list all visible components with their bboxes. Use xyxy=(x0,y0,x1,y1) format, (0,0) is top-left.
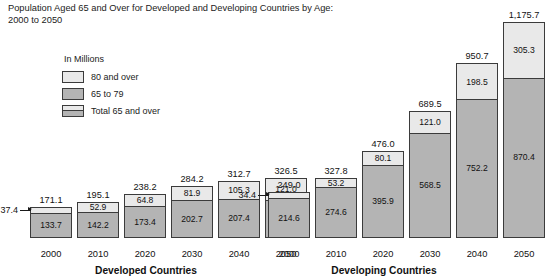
bar-developing-2000: 249.034.434.4214.6 xyxy=(268,22,310,238)
bar-segment-value-80-and-over: 80.1 xyxy=(375,154,392,163)
bar-segment-value-65-to-79: 133.7 xyxy=(40,221,62,230)
bar-total-label: 312.7 xyxy=(228,169,251,179)
stacked-bar: 305.3870.4 xyxy=(503,22,545,238)
callout-leader-line-icon xyxy=(258,195,269,196)
bar-segment-value-80-and-over: 198.5 xyxy=(466,78,488,87)
bar-segment-value-80-and-over: 53.2 xyxy=(328,179,345,188)
bar-segment-callout-80-and-over: 37.4 xyxy=(0,205,31,215)
bar-segment-80-and-over: 80.1 xyxy=(363,152,403,166)
bar-segment-callout-80-and-over: 34.4 xyxy=(238,190,269,200)
bar-developed-2020: 238.264.8173.4 xyxy=(124,22,166,238)
stacked-bar: 53.2274.6 xyxy=(315,178,357,238)
bar-segment-value-80-and-over: 305.3 xyxy=(513,46,535,55)
bar-segment-80-and-over: 198.5 xyxy=(457,64,497,100)
x-axis-developing: 200020102020203020402050 xyxy=(268,249,545,259)
bar-developed-2040: 312.7105.3207.4 xyxy=(218,22,260,238)
stacked-bar: 64.8173.4 xyxy=(124,194,166,238)
stacked-bar: 37.437.4133.7 xyxy=(30,207,72,238)
bar-segment-65-to-79: 870.4 xyxy=(504,79,544,237)
bar-total-label: 249.0 xyxy=(278,180,301,190)
stacked-bar: 80.1395.9 xyxy=(362,151,404,238)
bar-segment-80-and-over: 52.9 xyxy=(78,203,118,213)
stacked-bar: 81.9202.7 xyxy=(171,186,213,238)
stacked-bar: 105.3207.4 xyxy=(218,181,260,238)
bar-segment-80-and-over: 305.3 xyxy=(504,23,544,79)
x-axis-tick-2000: 2000 xyxy=(268,249,310,259)
bar-developing-2040: 950.7198.5752.2 xyxy=(456,22,498,238)
bar-developing-2020: 476.080.1395.9 xyxy=(362,22,404,238)
x-axis-tick-2030: 2030 xyxy=(171,249,213,259)
bar-total-label: 195.1 xyxy=(87,190,110,200)
x-axis-tick-2010: 2010 xyxy=(77,249,119,259)
bar-segment-65-to-79: 752.2 xyxy=(457,100,497,237)
bar-segment-80-and-over: 64.8 xyxy=(125,195,165,206)
bar-segment-value-80-and-over: 81.9 xyxy=(184,189,201,198)
bar-total-label: 238.2 xyxy=(134,182,157,192)
stacked-bar: 34.434.4214.6 xyxy=(268,192,310,238)
bar-segment-value-65-to-79: 142.2 xyxy=(87,221,109,230)
bar-segment-value-65-to-79: 207.4 xyxy=(228,214,250,223)
bar-segment-80-and-over: 53.2 xyxy=(316,179,356,189)
bar-group-developing: 249.034.434.4214.6327.853.2274.6476.080.… xyxy=(268,22,545,238)
bar-total-label: 171.1 xyxy=(40,195,63,205)
x-axis-tick-2020: 2020 xyxy=(124,249,166,259)
stacked-bar: 198.5752.2 xyxy=(456,63,498,238)
bars-developing: 249.034.434.4214.6327.853.2274.6476.080.… xyxy=(268,22,545,238)
bar-developed-2030: 284.281.9202.7 xyxy=(171,22,213,238)
x-axis-tick-2040: 2040 xyxy=(456,249,498,259)
bars-developed: 171.137.437.4133.7195.152.9142.2238.264.… xyxy=(30,22,307,238)
bar-developed-2010: 195.152.9142.2 xyxy=(77,22,119,238)
x-axis-tick-2020: 2020 xyxy=(362,249,404,259)
stacked-bar: 52.9142.2 xyxy=(77,202,119,238)
bar-total-label: 327.8 xyxy=(325,166,348,176)
bar-segment-value-65-to-79: 173.4 xyxy=(134,218,156,227)
bar-segment-value-65-to-79: 568.5 xyxy=(419,181,441,190)
bar-developing-2050: 1,175.7305.3870.4 xyxy=(503,22,545,238)
x-axis-tick-2000: 2000 xyxy=(30,249,72,259)
bar-segment-value-65-to-79: 752.2 xyxy=(466,164,488,173)
x-axis-tick-2040: 2040 xyxy=(218,249,260,259)
bar-developed-2000: 171.137.437.4133.7 xyxy=(30,22,72,238)
bar-segment-65-to-79: 133.7 xyxy=(31,214,71,237)
x-axis-tick-2050: 2050 xyxy=(503,249,545,259)
bar-segment-65-to-79: 568.5 xyxy=(410,134,450,237)
bar-segment-80-and-over: 81.9 xyxy=(172,187,212,201)
axis-title-developed: Developed Countries xyxy=(28,265,264,276)
bar-segment-value-80-and-over: 121.0 xyxy=(419,118,441,127)
bar-segment-65-to-79: 142.2 xyxy=(78,213,118,237)
x-axis-tick-2010: 2010 xyxy=(315,249,357,259)
bar-segment-value-65-to-79: 395.9 xyxy=(372,197,394,206)
bar-group-developed: 171.137.437.4133.7195.152.9142.2238.264.… xyxy=(30,22,307,238)
axis-title-developing: Developing Countries xyxy=(266,265,502,276)
bar-total-label: 476.0 xyxy=(372,139,395,149)
bar-total-label: 1,175.7 xyxy=(509,10,540,20)
bar-segment-value-65-to-79: 870.4 xyxy=(513,153,535,162)
bar-total-label: 689.5 xyxy=(419,99,442,109)
bar-segment-65-to-79: 207.4 xyxy=(219,200,259,237)
stacked-bar: 121.0568.5 xyxy=(409,111,451,238)
bar-segment-value-65-to-79: 202.7 xyxy=(181,215,203,224)
bar-segment-65-to-79: 214.6 xyxy=(269,199,309,237)
x-axis-developed: 200020102020203020402050 xyxy=(30,249,307,259)
bar-developing-2030: 689.5121.0568.5 xyxy=(409,22,451,238)
bar-segment-65-to-79: 395.9 xyxy=(363,166,403,237)
bar-total-label: 284.2 xyxy=(181,174,204,184)
bar-segment-value-80-and-over: 64.8 xyxy=(137,196,154,205)
bar-segment-80-and-over: 121.0 xyxy=(410,112,450,134)
bar-segment-value-65-to-79: 214.6 xyxy=(278,214,300,223)
bar-segment-65-to-79: 173.4 xyxy=(125,207,165,237)
callout-leader-line-icon xyxy=(20,210,31,211)
bar-developing-2010: 327.853.2274.6 xyxy=(315,22,357,238)
x-axis-tick-2030: 2030 xyxy=(409,249,451,259)
bar-segment-value-65-to-79: 274.6 xyxy=(325,208,347,217)
bar-total-label: 950.7 xyxy=(466,51,489,61)
bar-segment-65-to-79: 274.6 xyxy=(316,188,356,237)
bar-segment-value-80-and-over: 52.9 xyxy=(90,203,107,212)
bar-segment-65-to-79: 202.7 xyxy=(172,201,212,237)
